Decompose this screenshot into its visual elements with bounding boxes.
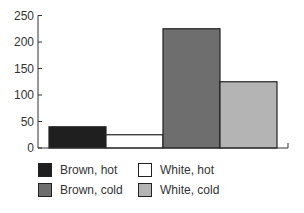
bar-brown-hot [49, 127, 106, 148]
y-tick-label: 100 [14, 88, 34, 102]
bar-white-cold [220, 82, 277, 148]
legend-item-brown-hot: Brown, hot [38, 162, 117, 178]
legend-label: Brown, hot [60, 163, 117, 177]
y-tick-label: 150 [14, 62, 34, 76]
legend-swatch-white-hot [138, 163, 152, 177]
legend-swatch-white-cold [138, 183, 152, 197]
bar-chart: 050100150200250 [0, 0, 304, 160]
legend-item-white-hot: White, hot [138, 162, 214, 178]
legend-label: White, cold [160, 183, 219, 197]
y-tick-label: 0 [27, 141, 34, 155]
legend-label: White, hot [160, 163, 214, 177]
legend-label: Brown, cold [60, 183, 123, 197]
y-tick-label: 250 [14, 9, 34, 23]
y-axis: 050100150200250 [14, 9, 42, 156]
legend-swatch-brown-cold [38, 183, 52, 197]
legend-item-brown-cold: Brown, cold [38, 182, 123, 198]
bars [49, 29, 277, 148]
y-tick-label: 200 [14, 35, 34, 49]
y-tick-label: 50 [21, 115, 35, 129]
bar-white-hot [106, 135, 163, 148]
legend-item-white-cold: White, cold [138, 182, 219, 198]
bar-brown-cold [163, 29, 220, 148]
legend-swatch-brown-hot [38, 163, 52, 177]
